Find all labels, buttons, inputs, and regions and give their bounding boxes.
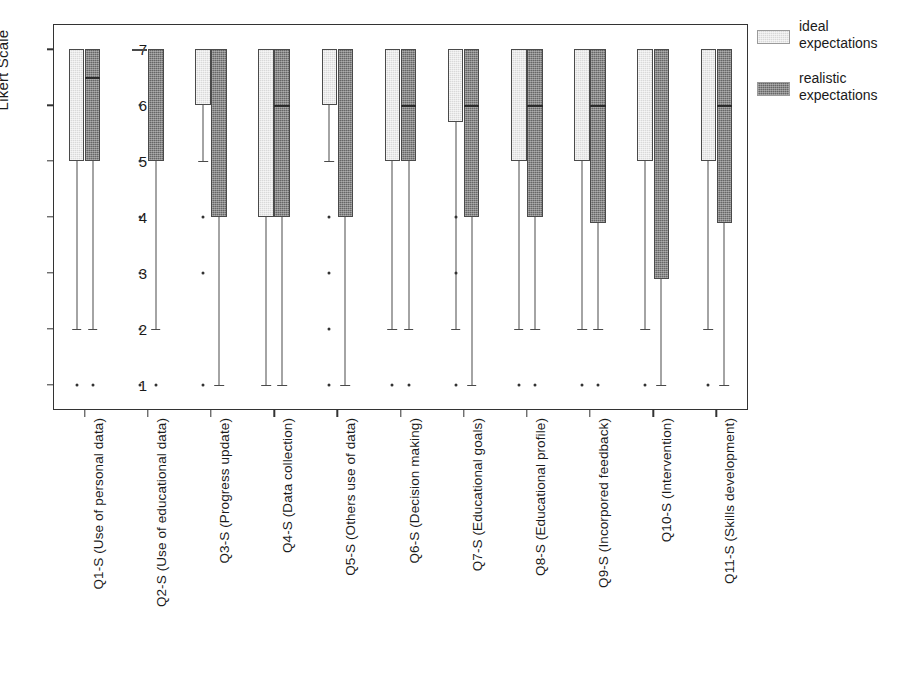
box-realistic — [274, 49, 290, 217]
y-tick-mark — [47, 272, 53, 273]
outlier-point — [580, 383, 583, 386]
x-tick-mark — [400, 410, 401, 417]
whisker-cap-lower — [214, 385, 224, 386]
whisker-cap-lower — [341, 385, 351, 386]
x-tick-label: Q7-S (Educational goals) — [470, 418, 485, 571]
whisker-lower — [266, 217, 267, 385]
outlier-point — [407, 383, 410, 386]
box-ideal — [195, 49, 211, 105]
box-realistic — [85, 49, 101, 161]
outlier-point — [138, 383, 141, 386]
x-tick-label: Q5-S (Others use of data) — [343, 418, 358, 576]
outlier-point — [328, 271, 331, 274]
box-realistic — [464, 49, 480, 217]
legend-label-line1: realistic — [799, 70, 846, 86]
outlier-point — [391, 383, 394, 386]
median-line — [527, 105, 543, 107]
box-realistic — [527, 49, 543, 217]
y-tick-mark — [47, 104, 53, 105]
legend-item-realistic[interactable]: realisticexpectations — [757, 70, 905, 104]
x-tick-mark — [463, 410, 464, 417]
whisker-cap-lower — [72, 329, 82, 330]
y-tick-mark — [47, 384, 53, 385]
whisker-lower — [329, 105, 330, 161]
median-line — [464, 105, 480, 107]
x-tick-mark — [210, 410, 211, 417]
chart-legend: idealexpectationsrealisticexpectations — [757, 18, 905, 122]
whisker-cap-lower — [451, 329, 461, 330]
whisker-cap-lower — [514, 329, 524, 330]
whisker-cap-lower — [324, 161, 334, 162]
whisker-cap-lower — [388, 329, 398, 330]
legend-label-line2: expectations — [799, 35, 878, 52]
x-tick-mark — [84, 410, 85, 417]
legend-label: realisticexpectations — [799, 70, 878, 104]
outlier-point — [454, 271, 457, 274]
whisker-lower — [76, 161, 77, 329]
whisker-lower — [345, 217, 346, 385]
box-ideal — [637, 49, 653, 161]
whisker-cap-lower — [704, 329, 714, 330]
whisker-cap-lower — [261, 385, 271, 386]
whisker-lower — [392, 161, 393, 329]
legend-label-line1: ideal — [799, 18, 829, 34]
box-realistic — [338, 49, 354, 217]
y-tick-label: 4 — [117, 209, 147, 226]
box-realistic — [717, 49, 733, 222]
box-ideal — [511, 49, 527, 161]
x-tick-label: Q2-S (Use of educational data) — [154, 418, 169, 607]
x-tick-label: Q9-S (Incorpored feedback) — [596, 418, 611, 588]
y-tick-mark — [47, 160, 53, 161]
box-ideal — [701, 49, 717, 161]
outlier-point — [328, 383, 331, 386]
whisker-lower — [724, 223, 725, 385]
whisker-lower — [708, 161, 709, 329]
x-tick-label: Q4-S (Data collection) — [280, 418, 295, 553]
outlier-point — [644, 383, 647, 386]
whisker-lower — [92, 161, 93, 329]
box-ideal — [448, 49, 464, 122]
whisker-lower — [534, 217, 535, 329]
whisker-lower — [598, 223, 599, 329]
box-ideal — [385, 49, 401, 161]
x-tick-label: Q11-S (Skills development) — [722, 418, 737, 584]
outlier-point — [91, 383, 94, 386]
x-tick-label: Q3-S (Progress update) — [217, 418, 232, 564]
box-realistic — [590, 49, 606, 222]
y-axis-label: Likert Scale — [0, 0, 11, 150]
whisker-lower — [408, 161, 409, 329]
whisker-lower — [471, 217, 472, 385]
whisker-cap-lower — [198, 161, 208, 162]
whisker-cap-lower — [720, 385, 730, 386]
median-line — [717, 105, 733, 107]
x-tick-mark — [147, 410, 148, 417]
outlier-point — [533, 383, 536, 386]
box-ideal — [258, 49, 274, 217]
outlier-point — [138, 160, 141, 163]
whisker-cap-lower — [404, 329, 414, 330]
legend-swatch-icon — [757, 30, 790, 44]
outlier-point — [201, 383, 204, 386]
box-ideal — [69, 49, 85, 161]
whisker-lower — [202, 105, 203, 161]
whisker-lower — [518, 161, 519, 329]
y-tick-label: 5 — [117, 153, 147, 170]
y-tick-label: 3 — [117, 264, 147, 281]
median-line — [85, 77, 101, 79]
median-line — [401, 105, 417, 107]
whisker-lower — [282, 217, 283, 385]
box-ideal — [574, 49, 590, 161]
legend-item-ideal[interactable]: idealexpectations — [757, 18, 905, 52]
outlier-point — [328, 216, 331, 219]
outlier-point — [597, 383, 600, 386]
outlier-point — [454, 216, 457, 219]
legend-swatch-icon — [757, 82, 790, 96]
whisker-cap-lower — [277, 385, 287, 386]
outlier-point — [75, 383, 78, 386]
outlier-point — [138, 327, 141, 330]
x-tick-label: Q8-S (Educational profile) — [533, 418, 548, 576]
whisker-cap-lower — [530, 329, 540, 330]
y-tick-mark — [47, 328, 53, 329]
x-tick-mark — [716, 410, 717, 417]
outlier-point — [138, 104, 141, 107]
